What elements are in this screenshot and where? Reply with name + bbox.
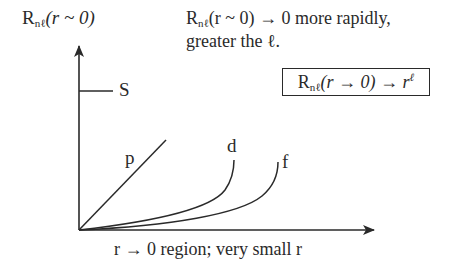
s-label: S <box>119 79 130 101</box>
p-label: p <box>125 147 135 169</box>
f-orbital-curve <box>79 162 278 230</box>
f-label: f <box>282 151 288 173</box>
x-axis-label: r → 0 region; very small r <box>114 239 302 260</box>
p-orbital-line <box>79 140 166 230</box>
d-label: d <box>227 135 237 157</box>
d-orbital-curve <box>79 160 234 230</box>
